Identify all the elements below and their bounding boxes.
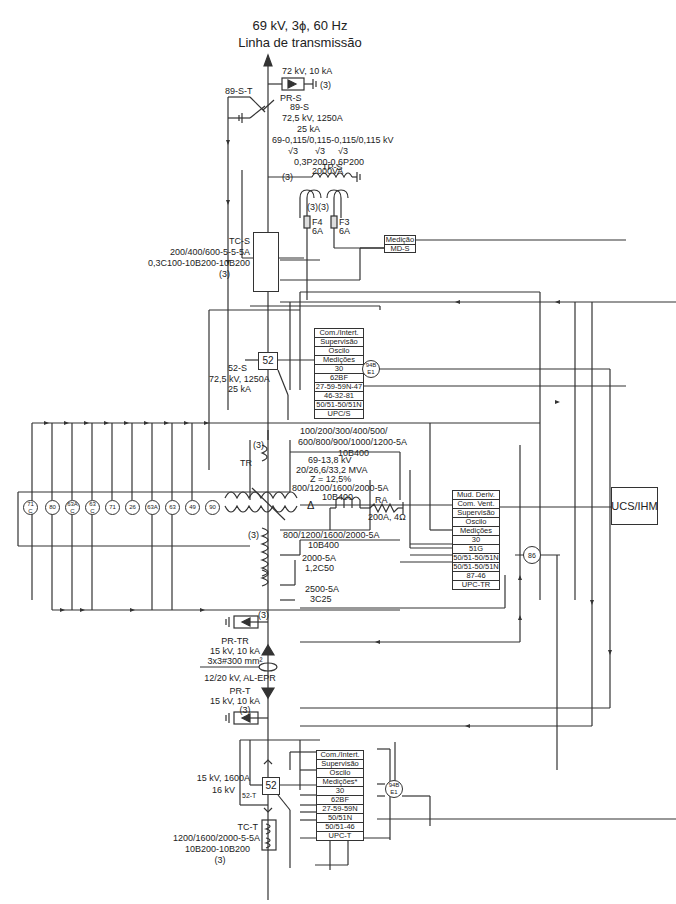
tr-qty: (3) <box>253 440 264 450</box>
fuse-f3-rating: 6A <box>339 226 350 236</box>
vt-secondary-qty: (3)(3) <box>307 202 329 212</box>
grounding-resistor-label: RA <box>375 495 388 505</box>
scada-ucs-ihm[interactable]: UCS/IHM <box>611 487 658 525</box>
panel-s-row: 50/51-50/51N <box>315 401 363 410</box>
metering-id: MD-S <box>385 245 415 253</box>
pr-s-qty: (3) <box>320 80 331 90</box>
disconnector-label: 89-S <box>290 102 309 112</box>
aux-device-80[interactable]: 80 <box>45 500 60 515</box>
panel-s-row: 46-32-81 <box>315 392 363 401</box>
panel-tr-row: 51G <box>453 545 499 554</box>
breaker-52-s-short-circuit: 25 kA <box>228 384 251 394</box>
panel-t-row: Medições* <box>317 778 363 787</box>
vt-sqrt-3: √3 <box>338 146 348 156</box>
panel-s-row: 62BF <box>315 374 363 383</box>
panel-tr-row: Supervisão <box>453 509 499 518</box>
pr-t-label: PR-T <box>210 686 270 696</box>
pr-s-rating: 72 kV, 10 kA <box>282 66 332 76</box>
aux-device-90[interactable]: 90 <box>205 500 220 515</box>
panel-t-row: Oscilo <box>317 769 363 778</box>
fuse-f4-rating: 6A <box>312 226 323 236</box>
aux-device-63c[interactable]: 63C <box>85 500 100 515</box>
pr-tr-label: PR-TR <box>200 636 270 646</box>
panel-s-row: Com./Intert. <box>315 329 363 338</box>
disconnector-rating: 72,5 kV, 1250A <box>282 113 343 123</box>
panel-tr-row: Medições <box>453 527 499 536</box>
breaker-52-s-name: 52-S <box>228 363 247 373</box>
tr-label: TR <box>240 458 252 468</box>
pr-tr-rating: 15 kV, 10 kA <box>195 646 275 656</box>
tc-s-qty: (3) <box>150 269 230 279</box>
breaker-52-t-name: 52-T <box>242 791 256 801</box>
tc-t-ratio: 1200/1600/2000-5-5A <box>150 833 260 843</box>
panel-tr-row: Com. Vent. <box>453 500 499 509</box>
pr-tr-qty: (3) <box>258 610 269 620</box>
tc-s-accuracy: 0,3C100-10B200-10B200 <box>100 258 250 268</box>
panel-s-row: 27-59-59N-47 <box>315 383 363 392</box>
panel-tr-row: UPC-TR <box>453 581 499 589</box>
panel-t-row: 30 <box>317 787 363 796</box>
tr-voltage: 69-13,8 kV <box>308 455 352 465</box>
tr-lv-ct2-ratio: 2000-5A <box>302 553 336 563</box>
relay-94b-t[interactable]: 94B E1 <box>385 780 403 798</box>
breaker-52-s-rating: 72,5 kV, 1250A <box>209 374 270 384</box>
panel-tr-row: 87-46 <box>453 572 499 581</box>
panel-s-row: UPC/S <box>315 410 363 418</box>
panel-upc-t[interactable]: Com./Intert. Supervisão Oscilo Medições*… <box>316 750 364 841</box>
aux-device-71[interactable]: 71 <box>105 500 120 515</box>
panel-tr-row: 30 <box>453 536 499 545</box>
vt-sqrt-2: √3 <box>315 146 325 156</box>
tc-t-label: TC-T <box>180 822 258 832</box>
aux-device-63a-c[interactable]: 63AC <box>65 500 80 515</box>
ground-switch-label: 89-S-T <box>225 86 253 96</box>
tc-s-label: TC-S <box>150 236 250 246</box>
tr-lv-ct3-ratio: 2500-5A <box>305 584 339 594</box>
line-title: 69 kV, 3ϕ, 60 Hz <box>180 18 420 34</box>
panel-t-row: 27-59-59N <box>317 805 363 814</box>
panel-upc-s[interactable]: Com./Intert. Supervisão Oscilo Medições … <box>314 328 364 419</box>
aux-device-63a[interactable]: 63A <box>145 500 160 515</box>
vt-sqrt-1: √3 <box>288 146 298 156</box>
pr-t-qty: (3) <box>230 705 260 715</box>
metering-md-s[interactable]: Medição MD-S <box>384 235 416 253</box>
aux-device-49[interactable]: 49 <box>185 500 200 515</box>
tr-neutral-ct-accuracy: 10B400 <box>322 492 353 502</box>
panel-s-row: Oscilo <box>315 347 363 356</box>
panel-tr-row: Oscilo <box>453 518 499 527</box>
panel-tr-row: Mud. Deriv. <box>453 491 499 500</box>
tr-lv-ct3-accuracy: 3C25 <box>310 594 332 604</box>
breaker-52-t-voltage: 16 kV <box>150 785 235 795</box>
aux-device-26[interactable]: 26 <box>125 500 140 515</box>
cable-section: 3x3#300 mm² <box>195 656 275 666</box>
vt-ratio: 69-0,115/0,115-0,115/0,115 kV <box>272 135 393 145</box>
panel-tr-row: 50/51-50/51N <box>453 554 499 563</box>
tc-s-ct-box <box>253 232 279 292</box>
relay-94b-s[interactable]: 94B E1 <box>362 360 380 378</box>
aux-device-63[interactable]: 63 <box>165 500 180 515</box>
panel-s-row: Supervisão <box>315 338 363 347</box>
tr-lv-ct2-accuracy: 1,2C50 <box>305 563 334 573</box>
tr-hv-ct-ratio-b: 600/800/900/1000/1200-5A <box>298 437 407 447</box>
cable-insulation: 12/20 kV, AL-EPR <box>195 673 285 683</box>
panel-t-row: 50/51-46 <box>317 823 363 832</box>
aux-device-71c[interactable]: 71C <box>23 500 38 515</box>
grounding-resistor-rating: 200A, 4Ω <box>368 512 406 522</box>
panel-s-row: Medições <box>315 356 363 365</box>
breaker-52-s[interactable]: 52 <box>258 352 278 370</box>
vt-qty: (3) <box>282 172 293 182</box>
tr-lv-ct-qty: (3) <box>248 530 259 540</box>
breaker-52-t[interactable]: 52 <box>262 777 280 795</box>
panel-t-row: 50/51N <box>317 814 363 823</box>
tc-s-ratio: 200/400/600-5-5-5A <box>120 247 250 257</box>
panel-t-row: UPC-T <box>317 832 363 840</box>
lockout-relay-86[interactable]: 86 <box>523 546 541 564</box>
line-subtitle: Linha de transmissão <box>180 35 420 51</box>
panel-upc-tr[interactable]: Mud. Deriv. Com. Vent. Supervisão Oscilo… <box>452 490 500 590</box>
disconnector-short-circuit: 25 kA <box>297 124 320 134</box>
panel-s-row: 30 <box>315 365 363 374</box>
panel-tr-row: 50/51-50/51N <box>453 563 499 572</box>
tr-lv-ct1-ratio: 800/1200/1600/2000-5A <box>283 530 380 540</box>
tr-lv-ct1-accuracy: 10B400 <box>308 540 339 550</box>
delta-wye-symbol: Δ <box>307 500 314 510</box>
panel-t-row: 62BF <box>317 796 363 805</box>
